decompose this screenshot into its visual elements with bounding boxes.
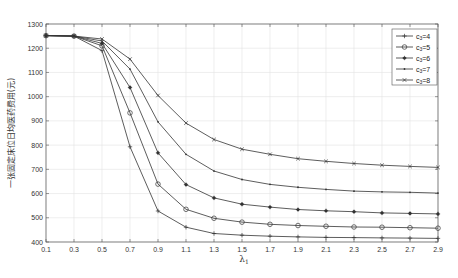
marker-point-icon [185,153,187,155]
line-chart: 4005006007008009001000110012001300 0.10.… [0,0,458,278]
marker-point-icon [213,170,215,172]
y-tick-label: 800 [31,142,43,149]
marker-star-icon [296,207,300,211]
marker-point-icon [129,68,131,70]
y-tick-label: 1300 [27,21,43,28]
marker-point-icon [353,190,355,192]
marker-star-icon [268,205,272,209]
marker-plus-icon [184,225,188,229]
x-tick-label: 0.9 [153,246,163,253]
marker-star-icon [436,212,440,216]
marker-plus-icon [324,235,328,239]
x-axis-label: λ1 [239,254,249,265]
marker-plus-icon [240,233,244,237]
marker-plus-icon [296,235,300,239]
marker-plus-icon [380,236,384,240]
x-tick-label: 2.5 [377,246,387,253]
marker-point-icon [409,191,411,193]
y-tick-label: 1200 [27,45,43,52]
y-tick-label: 700 [31,166,43,173]
marker-star-icon [212,196,216,200]
marker-star-icon [352,210,356,214]
x-tick-label: 1.1 [181,246,191,253]
marker-plus-icon [408,236,412,240]
marker-star-icon [324,209,328,213]
marker-star-icon [128,85,132,89]
x-tick-label: 0.5 [97,246,107,253]
y-tick-label: 1100 [28,69,43,76]
marker-plus-icon [436,236,440,240]
marker-point-icon [381,191,383,193]
y-tick-label: 1000 [27,93,43,100]
marker-star-icon [380,211,384,215]
marker-plus-icon [156,209,160,213]
y-tick-label: 900 [31,117,43,124]
x-tick-label: 2.9 [433,246,443,253]
x-tick-label: 2.7 [405,246,415,253]
marker-point-icon [269,183,271,185]
x-tick-label: 1.9 [293,246,303,253]
legend: c3=4c3=5c3=6c3=7c3=8 [392,29,437,85]
marker-point-icon [437,192,439,194]
x-tick-label: 1.5 [237,246,247,253]
marker-point-icon [101,40,103,42]
y-tick-label: 400 [31,239,43,246]
x-tick-label: 1.3 [209,246,219,253]
y-tick-label: 600 [31,190,43,197]
marker-plus-icon [268,234,272,238]
marker-point-icon [325,189,327,191]
marker-point-icon [241,179,243,181]
marker-point-icon [157,121,159,123]
x-tick-label: 1.7 [265,246,275,253]
y-axis-ticks: 4005006007008009001000110012001300 [27,21,438,246]
marker-plus-icon [212,231,216,235]
x-tick-label: 2.1 [321,246,331,253]
marker-plus-icon [352,235,356,239]
grid-lines [46,24,438,242]
marker-star-icon [408,211,412,215]
marker-point-icon [404,68,406,70]
y-tick-label: 500 [31,214,43,221]
x-tick-label: 0.3 [69,246,79,253]
x-tick-label: 2.3 [349,246,359,253]
y-axis-label: 一张固定床位日均医药费用(元) [6,78,16,188]
x-tick-label: 0.7 [125,246,135,253]
x-tick-label: 0.1 [41,246,51,253]
marker-star-icon [240,202,244,206]
marker-point-icon [297,186,299,188]
